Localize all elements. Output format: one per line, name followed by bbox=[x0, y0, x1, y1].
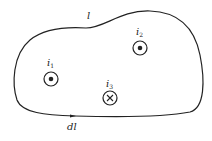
current-i1-sub: 1 bbox=[50, 62, 54, 69]
dl-arrow-icon bbox=[70, 115, 76, 118]
current-i3-sub: 3 bbox=[109, 83, 113, 90]
current-i2-out-of-page-icon bbox=[133, 41, 147, 55]
current-i3-into-page-icon bbox=[103, 91, 117, 105]
current-i1-out-of-page-icon bbox=[44, 72, 58, 86]
current-i1-label: i1 bbox=[47, 58, 54, 69]
loop-label: l bbox=[87, 11, 90, 21]
current-i2-sub: 2 bbox=[139, 31, 143, 38]
current-i2-label: i2 bbox=[136, 27, 143, 38]
element-label: dl bbox=[67, 122, 77, 132]
closed-loop-curve bbox=[14, 11, 203, 117]
diagram-canvas bbox=[0, 0, 212, 141]
current-i3-label: i3 bbox=[106, 79, 113, 90]
